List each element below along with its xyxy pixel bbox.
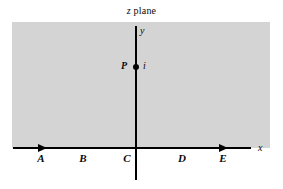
y-axis-label: y: [140, 25, 144, 36]
z-plane-figure: z plane x y A B C D E P i: [0, 0, 283, 189]
y-axis-line: [135, 26, 137, 180]
shaded-upper-half-plane: [12, 22, 270, 148]
x-axis-label: x: [258, 142, 262, 153]
segment-label-a: A: [34, 152, 48, 164]
point-i-value-label: i: [143, 60, 146, 71]
point-p-marker-dot: [133, 64, 139, 70]
segment-label-e: E: [216, 152, 230, 164]
segment-label-d: D: [175, 152, 189, 164]
figure-title: z plane: [0, 5, 283, 16]
figure-title-text: plane: [131, 5, 156, 16]
x-axis-arrow-left-icon: [38, 144, 47, 152]
segment-label-c: C: [120, 152, 134, 164]
x-axis-line: [13, 147, 251, 149]
point-p-label: P: [121, 60, 127, 71]
segment-label-b: B: [76, 152, 90, 164]
x-axis-arrow-right-icon: [219, 144, 228, 152]
